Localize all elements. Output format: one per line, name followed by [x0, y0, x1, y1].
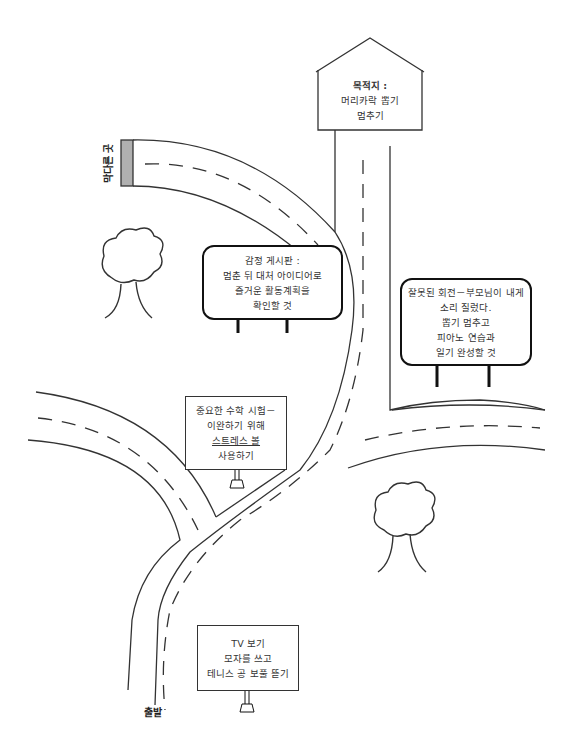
sign-line: 이완하기 위해: [207, 418, 264, 433]
sign-line: 일기 완성할 것: [436, 345, 496, 360]
sign-line: 즐거운 활동계획을: [235, 283, 310, 298]
sign-wrong-turn: 잘못된 회전－부모님이 내게 소리 질렀다. 뽑기 멈추고 피아노 연습과 일기…: [400, 278, 532, 366]
sign-line: 피아노 연습과: [437, 330, 494, 345]
sign-line: 사용하기: [218, 448, 254, 463]
sign-line: 확인할 것: [253, 298, 292, 313]
sign-line: 잘못된 회전－부모님이 내게: [408, 285, 523, 300]
tree-icon: [374, 482, 435, 572]
sign-line: TV 보기: [231, 636, 264, 651]
destination-line: 멈추기: [357, 108, 384, 123]
sign-line: 스트레스 볼: [212, 433, 260, 448]
destination-title: 목적지 :: [353, 78, 387, 93]
sign-tv: TV 보기 모자를 쓰고 테니스 공 보풀 뜯기: [197, 625, 299, 691]
dead-end-road: [121, 140, 335, 253]
sign-line: 중요한 수학 시험－: [196, 403, 275, 418]
sign-line: 테니스 공 보풀 뜯기: [207, 666, 288, 681]
dead-end-label: 막다른 곳: [100, 144, 115, 183]
start-label: 출발: [144, 704, 162, 719]
tree-icon: [102, 228, 163, 318]
dead-end-block: [121, 140, 133, 186]
sign-line: 뽑기 멈추고: [442, 315, 490, 330]
destination-label: 목적지 : 머리카락 뽑기 멈추기: [320, 72, 420, 128]
sign-line: 멈춘 뒤 대처 아이디어로: [223, 268, 322, 283]
sign-emotion-board: 감정 게시판 : 멈춘 뒤 대처 아이디어로 즐거운 활동계획을 확인할 것: [202, 245, 343, 320]
destination-line: 머리카락 뽑기: [341, 93, 398, 108]
sign-line: 소리 질렀다.: [440, 300, 491, 315]
sign-line: 감정 게시판 :: [245, 253, 299, 268]
sign-line: 모자를 쓰고: [224, 651, 272, 666]
sign-math-test: 중요한 수학 시험－ 이완하기 위해 스트레스 볼 사용하기: [185, 396, 287, 470]
right-branch-road: [348, 405, 545, 468]
